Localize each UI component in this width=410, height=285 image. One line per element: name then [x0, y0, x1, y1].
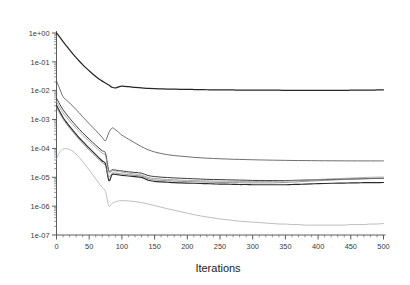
series-line — [57, 102, 384, 182]
y-tick-label: 1e-05 — [31, 173, 50, 182]
y-axis-tick-labels: 1e+001e-011e-021e-031e-041e-051e-061e-07 — [29, 29, 50, 240]
x-tick-label: 50 — [85, 242, 93, 251]
x-tick-label: 250 — [214, 242, 226, 251]
series-line — [57, 81, 384, 161]
x-tick-label: 100 — [116, 242, 128, 251]
x-tick-label: 150 — [148, 242, 160, 251]
x-tick-label: 350 — [279, 242, 291, 251]
x-axis-tick-labels: 050100150200250300350400450500 — [54, 242, 389, 251]
convergence-chart: 1e+001e-011e-021e-031e-041e-051e-061e-07… — [0, 0, 410, 285]
x-tick-label: 200 — [181, 242, 193, 251]
series-lines — [57, 33, 384, 225]
y-tick-label: 1e-03 — [31, 115, 50, 124]
y-axis-ticks — [52, 33, 57, 235]
x-tick-label: 0 — [54, 242, 58, 251]
x-axis-ticks — [57, 235, 384, 240]
series-line — [57, 149, 384, 226]
y-tick-label: 1e-06 — [31, 202, 50, 211]
chart-canvas: 1e+001e-011e-021e-031e-041e-051e-061e-07… — [0, 0, 410, 285]
x-tick-label: 400 — [312, 242, 324, 251]
y-tick-label: 1e-01 — [31, 58, 50, 67]
y-tick-label: 1e+00 — [29, 29, 50, 38]
x-tick-label: 500 — [377, 242, 389, 251]
x-tick-label: 300 — [247, 242, 259, 251]
series-line — [57, 98, 384, 180]
x-tick-label: 450 — [345, 242, 357, 251]
y-tick-label: 1e-07 — [31, 231, 50, 240]
series-line — [57, 105, 384, 184]
series-line — [57, 107, 384, 183]
y-tick-label: 1e-02 — [31, 86, 50, 95]
x-axis-title: Iterations — [195, 262, 241, 274]
y-tick-label: 1e-04 — [31, 144, 50, 153]
series-line — [57, 33, 384, 90]
